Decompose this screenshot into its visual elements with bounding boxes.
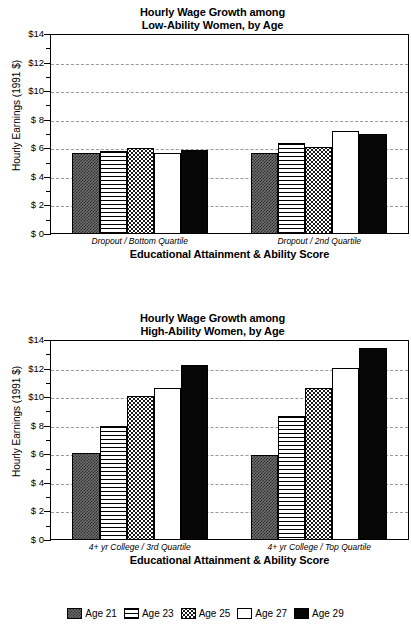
bar-set [251,35,387,233]
chart-1-bar-groups [51,35,408,233]
bar-age-29[interactable] [181,365,208,539]
legend-swatch-horizontal-lines [124,608,139,619]
chart-1-category-labels: Dropout / Bottom QuartileDropout / 2nd Q… [50,236,409,246]
y-tick-label: $ 8 [14,115,44,125]
legend-swatch-solid-black [294,608,309,619]
legend-item[interactable]: Age 25 [181,608,231,619]
y-tick-label: $ 4 [14,478,44,488]
chart-2-x-axis-title: Educational Attainment & Ability Score [50,554,409,566]
bar-age-23[interactable] [278,143,305,233]
y-tick-label: $ 2 [14,507,44,517]
y-tick-mark [44,540,51,541]
chart-2-category-labels: 4+ yr College / 3rd Quartile4+ yr Colleg… [50,542,409,552]
legend-swatch-solid-white [237,608,252,619]
chart-1-title-line2: Low-Ability Women, by Age [14,19,411,32]
bar-age-29[interactable] [181,150,208,233]
y-tick-label: $ 8 [14,421,44,431]
chart-2-title: Hourly Wage Growth among High-Ability Wo… [0,312,411,337]
bar-age-25[interactable] [305,147,332,233]
bar-age-23[interactable] [100,426,127,539]
bar-group [51,341,230,539]
chart-2-plot-area [50,340,409,540]
bar-group [51,35,230,233]
y-tick-mark [44,234,51,235]
legend-label: Age 21 [85,608,117,619]
legend-label: Age 25 [199,608,231,619]
y-tick-label: $10 [14,86,44,96]
bar-group [230,35,409,233]
chart-2-title-line1: Hourly Wage Growth among [14,312,411,325]
bar-age-21[interactable] [251,455,278,539]
chart-2-bar-groups [51,341,408,539]
chart-2-plot-wrap: Hourly Earnings (1991 $) $ 0$ 2$ 4$ 6$ 8… [0,340,411,540]
bar-set [72,35,208,233]
y-tick-label: $ 6 [14,144,44,154]
chart-1-title: Hourly Wage Growth among Low-Ability Wom… [0,6,411,31]
y-tick-label: $10 [14,392,44,402]
bar-age-27[interactable] [332,368,359,539]
category-label: 4+ yr College / 3rd Quartile [50,542,230,552]
bar-set [72,341,208,539]
bar-age-29[interactable] [359,348,386,539]
legend-label: Age 29 [312,608,344,619]
legend-label: Age 27 [255,608,287,619]
y-tick-label: $ 0 [14,535,44,545]
chart-1-title-line1: Hourly Wage Growth among [14,6,411,19]
legend-item[interactable]: Age 29 [294,608,344,619]
chart-1-y-tick-labels: $ 0$ 2$ 4$ 6$ 8$10$12$14 [14,34,44,234]
y-tick-label: $12 [14,58,44,68]
chart-2-title-line2: High-Ability Women, by Age [14,325,411,338]
y-tick-label: $ 6 [14,450,44,460]
chart-page: Hourly Wage Growth among Low-Ability Wom… [0,0,411,635]
legend-label: Age 23 [142,608,174,619]
chart-2-y-tick-labels: $ 0$ 2$ 4$ 6$ 8$10$12$14 [14,340,44,540]
bar-group [230,341,409,539]
y-tick-label: $12 [14,364,44,374]
chart-legend: Age 21Age 23Age 25Age 27Age 29 [0,608,411,619]
category-label: Dropout / Bottom Quartile [50,236,230,246]
bar-age-23[interactable] [100,151,127,233]
chart-1-plot-area [50,34,409,234]
legend-item[interactable]: Age 27 [237,608,287,619]
legend-item[interactable]: Age 21 [67,608,117,619]
y-tick-label: $14 [14,335,44,345]
chart-1-plot-wrap: Hourly Earnings (1991 $) $ 0$ 2$ 4$ 6$ 8… [0,34,411,234]
chart-high-ability: Hourly Wage Growth among High-Ability Wo… [0,312,411,600]
legend-swatch-dotted [181,608,196,619]
category-label: Dropout / 2nd Quartile [230,236,410,246]
bar-age-25[interactable] [127,148,154,233]
bar-age-27[interactable] [332,131,359,233]
bar-age-21[interactable] [72,153,99,233]
y-tick-label: $ 4 [14,172,44,182]
bar-age-21[interactable] [251,153,278,233]
legend-swatch-checkered [67,608,82,619]
bar-age-23[interactable] [278,416,305,539]
chart-low-ability: Hourly Wage Growth among Low-Ability Wom… [0,6,411,296]
bar-age-27[interactable] [154,153,181,233]
legend-item[interactable]: Age 23 [124,608,174,619]
bar-age-25[interactable] [305,388,332,539]
bar-age-29[interactable] [359,134,386,233]
y-tick-label: $ 2 [14,201,44,211]
category-label: 4+ yr College / Top Quartile [230,542,410,552]
bar-age-21[interactable] [72,453,99,539]
y-tick-label: $ 0 [14,229,44,239]
y-tick-label: $14 [14,29,44,39]
bar-age-27[interactable] [154,388,181,539]
bar-set [251,341,387,539]
bar-age-25[interactable] [127,396,154,539]
chart-1-x-axis-title: Educational Attainment & Ability Score [50,248,409,260]
